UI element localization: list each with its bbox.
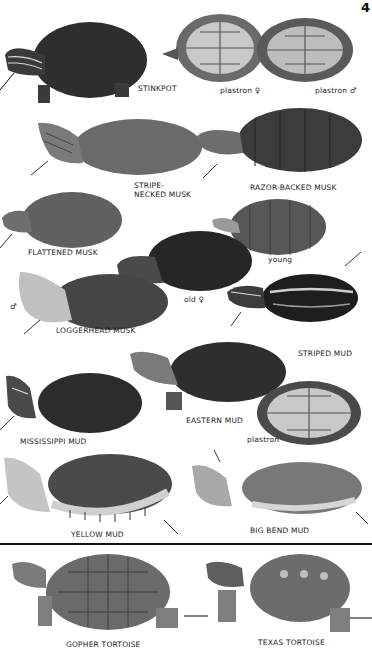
striped-mud-arrow <box>343 250 363 270</box>
label-old-female: old ♀ <box>184 295 204 304</box>
label-loggerhead-musk: LOGGERHEAD MUSK <box>56 326 136 335</box>
page-number: 4 <box>361 0 370 15</box>
label-eastern-mud: EASTERN MUD <box>186 416 243 425</box>
razor-backed-musk-illustration <box>195 108 365 180</box>
label-mississippi-mud: MISSISSIPPI MUD <box>20 437 87 446</box>
stinkpot-plastron-male-illustration <box>250 8 358 86</box>
label-stripe-necked-musk-1: STRIPE- <box>134 181 164 190</box>
yellow-mud-illustration <box>0 452 180 527</box>
mississippi-mud-illustration <box>0 368 145 443</box>
striped-mud-illustration <box>225 268 370 328</box>
stripe-necked-musk-illustration <box>28 115 178 175</box>
label-plastron-female: plastron ♀ <box>220 86 260 95</box>
label-striped-mud: STRIPED MUD <box>298 349 352 358</box>
section-divider <box>0 543 372 545</box>
label-stinkpot: STINKPOT <box>138 84 177 93</box>
stinkpot-illustration <box>0 15 150 105</box>
label-flattened-musk: FLATTENED MUSK <box>28 248 98 257</box>
label-plastron-male: plastron ♂ <box>315 86 357 95</box>
label-big-bend-mud: BIG BEND MUD <box>250 526 309 535</box>
label-young: young <box>268 255 292 264</box>
texas-tortoise-illustration <box>200 552 372 634</box>
big-bend-mud-illustration <box>190 458 370 528</box>
flattened-musk-illustration <box>0 190 125 250</box>
label-eastern-mud-plastron: plastron <box>247 435 279 444</box>
label-gopher-tortoise: GOPHER TORTOISE <box>66 640 141 649</box>
label-texas-tortoise: TEXAS TORTOISE <box>258 638 325 647</box>
gopher-tortoise-illustration <box>8 552 208 634</box>
label-loggerhead-male: ♂ <box>10 302 17 311</box>
label-razor-backed-musk: RAZOR-BACKED MUSK <box>250 183 337 192</box>
label-stripe-necked-musk-2: NECKED MUSK <box>134 190 191 199</box>
label-yellow-mud: YELLOW MUD <box>71 530 124 539</box>
